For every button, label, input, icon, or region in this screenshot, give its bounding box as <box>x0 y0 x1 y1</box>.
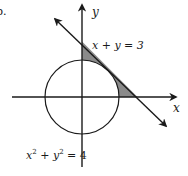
circle-label-plus: + <box>37 149 53 162</box>
circle-label-rhs: = 4 <box>64 149 87 162</box>
diagram-figure: b. y x x + y = 3 x2 + y2 = 4 <box>0 0 188 176</box>
problem-number: b. <box>0 6 7 17</box>
x-axis-label: x <box>173 102 180 114</box>
circle-equation-label: x2 + y2 = 4 <box>26 150 87 161</box>
y-axis-label: y <box>92 6 99 18</box>
line-x-plus-y-equals-3 <box>55 19 166 126</box>
line-equation-label: x + y = 3 <box>92 40 144 51</box>
